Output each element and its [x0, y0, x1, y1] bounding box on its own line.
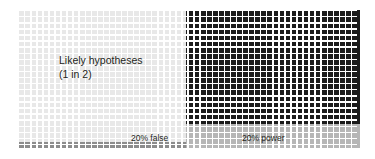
label-likely-line1: Likely hypotheses [59, 54, 142, 66]
label-power: 20% power [242, 133, 285, 143]
label-likely-line2: (1 in 2) [59, 68, 142, 82]
label-false-positive: 20% false [131, 133, 168, 143]
region-true-effects-dark [186, 10, 360, 124]
label-likely-hypotheses: Likely hypotheses (1 in 2) [59, 54, 142, 81]
hypothesis-power-diagram: Likely hypotheses (1 in 2) 20% false 20%… [0, 0, 375, 159]
